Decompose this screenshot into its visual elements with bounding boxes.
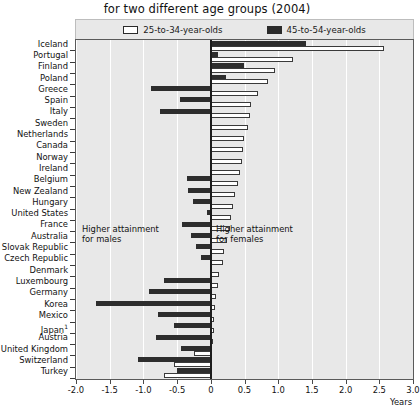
annotation-higher-attainment-females: Higher attainment for females — [216, 224, 293, 244]
bar-25-34 — [211, 79, 268, 84]
bar-45-54 — [196, 244, 211, 249]
bar-25-34 — [211, 125, 248, 130]
bar-25-34 — [211, 283, 218, 288]
legend-label-25-34: 25-to-34-year-olds — [143, 25, 222, 35]
x-axis-tick-label: 2.0 — [339, 385, 352, 395]
chart-title: for two different age groups (2004) — [0, 0, 414, 16]
x-axis-tick-label: 2.5 — [373, 385, 386, 395]
x-axis-tick-label: 1.0 — [272, 385, 285, 395]
x-axis: Years -2.0-1.5-1.0-0.500.51.01.52.02.53.… — [75, 380, 414, 414]
bar-25-34 — [211, 91, 258, 96]
category-tick — [70, 197, 75, 198]
category-label: Turkey — [0, 367, 68, 376]
gridline — [413, 40, 414, 379]
bar-45-54 — [182, 222, 210, 227]
bar-25-34 — [211, 113, 250, 118]
x-axis-tick — [76, 380, 77, 384]
category-tick — [70, 355, 75, 356]
category-label: Belgium — [0, 175, 68, 184]
category-label: Switzerland — [0, 356, 68, 365]
bar-45-54 — [149, 289, 211, 294]
category-tick — [70, 231, 75, 232]
category-label: Hungary — [0, 198, 68, 207]
bar-45-54 — [193, 199, 211, 204]
bar-25-34 — [211, 68, 275, 73]
legend-item-25-34: 25-to-34-year-olds — [123, 25, 222, 35]
category-tick — [70, 209, 75, 210]
bar-25-34 — [194, 351, 211, 356]
bar-45-54 — [158, 312, 211, 317]
bar-row — [76, 243, 413, 254]
bar-25-34 — [211, 159, 242, 164]
bar-row — [76, 334, 413, 345]
bar-25-34 — [211, 272, 219, 277]
category-tick — [70, 141, 75, 142]
category-label: United Kingdom — [0, 345, 68, 354]
category-label: Finland — [0, 62, 68, 71]
category-tick — [70, 242, 75, 243]
category-tick — [70, 129, 75, 130]
bar-25-34 — [211, 170, 241, 175]
bar-row — [76, 266, 413, 277]
bar-45-54 — [96, 301, 211, 306]
category-label: Norway — [0, 153, 68, 162]
bar-row — [76, 85, 413, 96]
category-tick — [70, 175, 75, 176]
category-tick — [70, 163, 75, 164]
category-label: Portugal — [0, 51, 68, 60]
bar-row — [76, 277, 413, 288]
category-tick — [70, 276, 75, 277]
bar-25-34 — [211, 215, 231, 220]
category-label: United States — [0, 209, 68, 218]
x-axis-tick-label: -1.0 — [135, 385, 151, 395]
bar-row — [76, 356, 413, 367]
x-axis-tick — [278, 380, 279, 384]
bar-25-34 — [211, 192, 235, 197]
category-tick — [70, 84, 75, 85]
x-axis-tick — [143, 380, 144, 384]
bar-45-54 — [187, 176, 211, 181]
chart-legend: 25-to-34-year-olds 45-to-54-year-olds — [75, 19, 414, 39]
annotation-females-line1: Higher attainment — [216, 224, 293, 234]
bar-row — [76, 323, 413, 334]
bar-row — [76, 289, 413, 300]
bar-row — [76, 153, 413, 164]
bar-25-34 — [174, 362, 211, 367]
x-axis-tick — [245, 380, 246, 384]
bar-row — [76, 63, 413, 74]
category-tick — [70, 333, 75, 334]
x-axis-tick-label: -2.0 — [68, 385, 84, 395]
category-tick — [70, 299, 75, 300]
bar-25-34 — [211, 204, 233, 209]
category-label: Italy — [0, 107, 68, 116]
x-axis-tick-label: -0.5 — [169, 385, 185, 395]
bar-25-34 — [211, 181, 238, 186]
category-label: Greece — [0, 85, 68, 94]
category-tick — [70, 367, 75, 368]
category-label: Iceland — [0, 40, 68, 49]
x-axis-tick — [312, 380, 313, 384]
x-axis-tick — [177, 380, 178, 384]
bar-row — [76, 300, 413, 311]
category-tick — [70, 378, 75, 379]
category-label: Spain — [0, 96, 68, 105]
annotation-males-line1: Higher attainment — [82, 224, 159, 234]
bar-45-54 — [160, 109, 211, 114]
bar-45-54 — [156, 335, 211, 340]
legend-swatch-light-icon — [123, 26, 138, 34]
category-axis: IcelandPortugalFinlandPolandGreeceSpainI… — [0, 39, 68, 380]
plot-area — [75, 39, 414, 380]
bar-45-54 — [180, 97, 211, 102]
category-tick — [70, 96, 75, 97]
bar-row — [76, 97, 413, 108]
category-tick — [70, 310, 75, 311]
category-label: Germany — [0, 288, 68, 297]
bar-row — [76, 368, 413, 379]
annotation-males-line2: for males — [82, 234, 159, 244]
legend-swatch-dark-icon — [267, 26, 282, 34]
category-tick — [70, 288, 75, 289]
zero-axis-line — [210, 40, 212, 379]
x-axis-tick — [110, 380, 111, 384]
legend-item-45-54: 45-to-54-year-olds — [267, 25, 366, 35]
